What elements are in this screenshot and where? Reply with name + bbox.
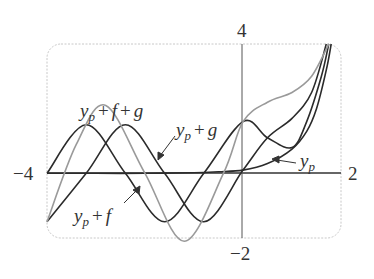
label-yp-f-g: yp+f+g (80, 101, 143, 123)
x-tick-left: −4 (13, 164, 33, 183)
y-tick-top: 4 (237, 21, 247, 40)
label-yp-g: yp+g (176, 120, 217, 142)
label-yp: yp (300, 151, 315, 173)
label-yp-f: yp+f (74, 206, 111, 228)
x-tick-right: 2 (348, 164, 358, 183)
annotation-arrows (124, 136, 296, 203)
y-tick-bottom: −2 (230, 244, 250, 263)
